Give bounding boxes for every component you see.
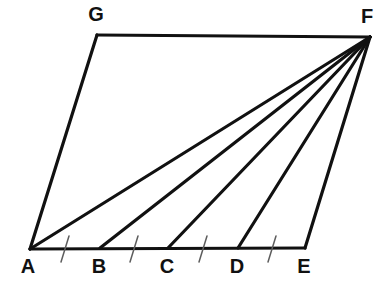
figure-background — [0, 0, 386, 286]
vertex-label-d: D — [230, 255, 244, 277]
edge-g-f — [97, 35, 370, 37]
vertex-label-b: B — [92, 255, 106, 277]
figure-canvas: A B C D E F G — [0, 0, 386, 286]
geometry-figure: A B C D E F G — [0, 0, 386, 286]
vertex-label-g: G — [88, 3, 104, 25]
vertex-label-a: A — [21, 255, 35, 277]
vertex-label-f: F — [361, 5, 373, 27]
vertex-label-e: E — [297, 255, 310, 277]
vertex-label-c: C — [160, 255, 174, 277]
